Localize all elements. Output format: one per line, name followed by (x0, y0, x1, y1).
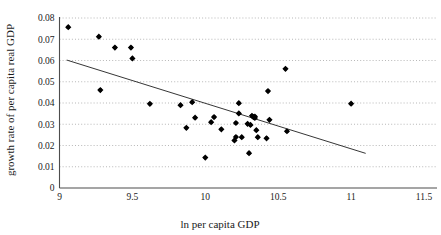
x-tick-label: 11 (347, 192, 356, 202)
data-point-core (237, 101, 241, 105)
scatter-plot-figure: 00.010.020.030.040.050.060.070.08 99.510… (0, 0, 441, 235)
data-point-core (284, 67, 288, 71)
x-tick-label: 10 (201, 192, 211, 202)
data-point-core (266, 89, 270, 93)
data-point-core (237, 111, 241, 115)
x-tick-label: 9 (57, 192, 62, 202)
data-point-core (240, 135, 244, 139)
data-point-core (247, 151, 251, 155)
data-point-core (209, 120, 213, 124)
data-point-core (349, 102, 353, 106)
y-tick-label: 0.01 (38, 162, 55, 172)
data-point-core (219, 127, 223, 131)
data-point-core (129, 46, 133, 50)
y-tick-label: 0.05 (38, 77, 55, 87)
data-point-core (285, 129, 289, 133)
data-point-core (265, 136, 269, 140)
data-point-core (234, 121, 238, 125)
chart-background (0, 0, 441, 235)
y-tick-label: 0.08 (38, 13, 55, 23)
data-point-core (98, 88, 102, 92)
chart-canvas: 00.010.020.030.040.050.060.070.08 99.510… (0, 0, 441, 235)
x-tick-label: 9.5 (126, 192, 138, 202)
y-tick-label: 0.07 (38, 35, 55, 45)
y-axis-title: growth rate of per capita real GDP (4, 24, 16, 176)
y-tick-label: 0.02 (38, 141, 55, 151)
data-point-core (97, 35, 101, 39)
data-point-core (268, 118, 272, 122)
y-tick-label: 0.04 (38, 98, 55, 108)
x-tick-label: 10.5 (270, 192, 287, 202)
y-tick-label: 0 (50, 183, 55, 193)
data-point-core (234, 135, 238, 139)
data-point-core (253, 116, 257, 120)
data-point-core (254, 128, 258, 132)
x-axis-title: ln per capita GDP (180, 218, 259, 230)
data-point-core (203, 156, 207, 160)
x-tick-label: 11.5 (416, 192, 433, 202)
data-point-core (190, 100, 194, 104)
data-point-core (66, 25, 70, 29)
y-tick-label: 0.03 (38, 120, 55, 130)
data-point-core (179, 103, 183, 107)
data-point-core (113, 46, 117, 50)
data-point-core (193, 116, 197, 120)
data-point-core (212, 115, 216, 119)
data-point-core (148, 102, 152, 106)
data-point-core (184, 126, 188, 130)
y-tick-label: 0.06 (38, 56, 55, 66)
data-point-core (256, 135, 260, 139)
data-point-core (249, 123, 253, 127)
data-point-core (130, 56, 134, 60)
y-axis-tick-labels: 00.010.020.030.040.050.060.070.08 (38, 13, 55, 193)
